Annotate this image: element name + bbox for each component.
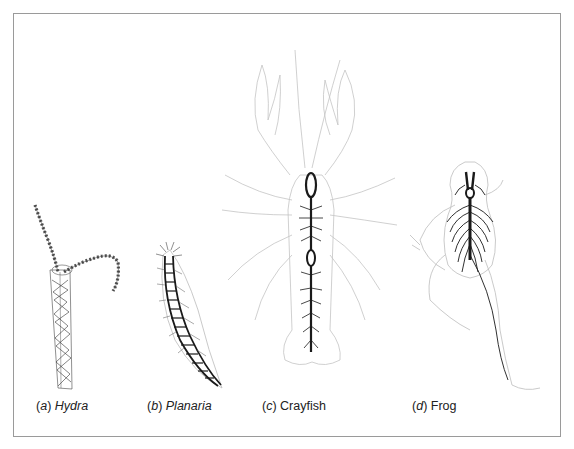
frog-illustration bbox=[410, 162, 540, 389]
panel-name-frog: Frog bbox=[431, 399, 457, 413]
crayfish-illustration bbox=[222, 50, 397, 365]
panel-name-planaria: Planaria bbox=[166, 399, 212, 413]
panel-letter-a: a bbox=[40, 399, 47, 413]
label-frog: (d) Frog bbox=[412, 399, 456, 413]
panel-letter-c: c bbox=[266, 399, 272, 413]
nervous-systems-illustration bbox=[0, 0, 574, 449]
planaria-illustration bbox=[156, 242, 222, 388]
panel-name-hydra: Hydra bbox=[55, 399, 88, 413]
panel-letter-d: d bbox=[416, 399, 423, 413]
label-planaria: (b) Planaria bbox=[147, 399, 212, 413]
label-crayfish: (c) Crayfish bbox=[262, 399, 326, 413]
hydra-illustration bbox=[35, 205, 118, 389]
panel-letter-b: b bbox=[151, 399, 158, 413]
label-hydra: (a) Hydra bbox=[36, 399, 88, 413]
panel-name-crayfish: Crayfish bbox=[280, 399, 326, 413]
